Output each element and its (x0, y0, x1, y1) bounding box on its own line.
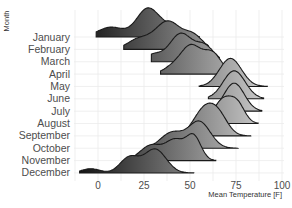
x-tick-label: 0 (95, 180, 101, 191)
y-tick-label: November (22, 154, 71, 166)
y-tick-label: August (37, 117, 70, 129)
y-tick-label: September (19, 129, 71, 141)
y-axis-labels: JanuaryFebruaryMarchAprilMayJuneJulyAugu… (19, 31, 71, 179)
y-tick-label: October (33, 142, 71, 154)
x-tick-label: 50 (184, 180, 196, 191)
y-tick-label: June (47, 92, 70, 104)
y-tick-label: March (41, 55, 70, 67)
y-tick-label: February (28, 43, 71, 55)
y-axis-title: Month (2, 11, 11, 32)
y-tick-label: July (51, 105, 70, 117)
y-tick-label: May (50, 80, 71, 92)
x-axis-title: Mean Temperature [F] (208, 190, 282, 199)
y-tick-label: January (33, 31, 71, 43)
y-tick-label: April (49, 68, 70, 80)
x-tick-label: 25 (138, 180, 150, 191)
ridgeline-chart: JanuaryFebruaryMarchAprilMayJuneJulyAugu… (0, 0, 292, 208)
y-tick-label: December (22, 166, 71, 178)
